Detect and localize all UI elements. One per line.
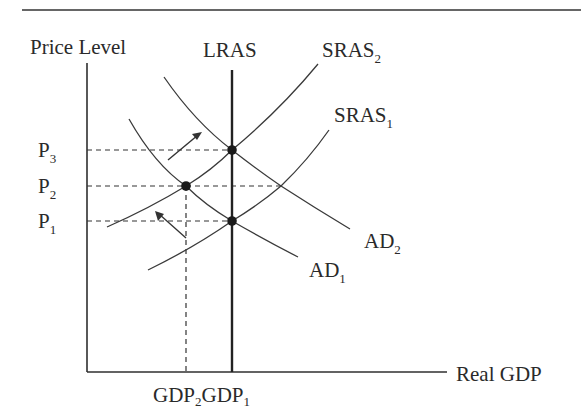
p3-label: P3 [38,138,56,166]
sras2-label: SRAS2 [322,38,381,66]
y-axis-label: Price Level [30,35,126,59]
ad2-label: AD2 [364,229,401,257]
sras-shift-arrow-icon [155,211,186,238]
x-axis-label: Real GDP [456,362,542,386]
ad-shift-arrow-icon [168,132,202,160]
gdp2-label: GDP [153,383,195,407]
ad1-curve [129,119,298,257]
ad2-curve [164,77,350,229]
lras-label: LRAS [203,38,257,62]
sras1-label: SRAS1 [334,103,393,131]
equilibrium-dot-p1 [227,216,237,226]
p1-label: P1 [38,209,56,237]
p2-label: P2 [38,174,56,202]
ad-as-diagram: Price Level Real GDP LRAS SRAS2 SRAS1 AD… [0,0,581,411]
sras2-curve [107,64,318,227]
gdp1-label: GDP [202,383,244,407]
equilibrium-dot-p2 [181,181,191,191]
gdp-labels: GDP2GDP1 [153,383,250,409]
ad1-label: AD1 [309,258,346,286]
equilibrium-dot-p3 [227,145,237,155]
